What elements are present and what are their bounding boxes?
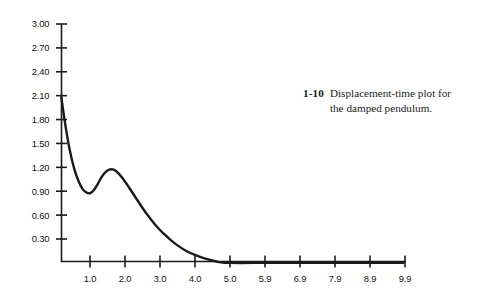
x-axis-tick-label: 6.9 bbox=[294, 273, 307, 284]
y-axis-tick-label: 2.40 bbox=[32, 66, 50, 77]
y-axis-tick-label: 2.10 bbox=[32, 90, 50, 101]
x-axis-tick-label: 1.0 bbox=[84, 273, 97, 284]
displacement-time-chart: 0.300.600.901.201.501.802.102.402.703.00… bbox=[0, 0, 492, 299]
displacement-curve bbox=[61, 97, 403, 263]
y-axis-tick-label: 2.70 bbox=[32, 42, 50, 53]
x-axis-tick-label: 7.9 bbox=[329, 273, 342, 284]
caption-text: Displacement-time plot for the damped pe… bbox=[330, 86, 462, 115]
y-axis-tick-label: 1.80 bbox=[32, 114, 50, 125]
y-axis-tick-label: 0.90 bbox=[32, 186, 50, 197]
x-axis-tick-label: 5.0 bbox=[224, 273, 237, 284]
x-axis-tick-label: 4.0 bbox=[189, 273, 202, 284]
x-axis-tick-labels: 1.02.03.04.05.05.96.97.98.99.9 bbox=[84, 273, 412, 284]
figure-caption: 1-10Displacement-time plot for the dampe… bbox=[303, 86, 488, 115]
figure-damped-pendulum: 0.300.600.901.201.501.802.102.402.703.00… bbox=[0, 0, 492, 299]
y-axis-tick-label: 0.30 bbox=[32, 233, 50, 244]
caption-number: 1-10 bbox=[303, 87, 324, 99]
x-axis-tick-label: 8.9 bbox=[364, 273, 377, 284]
x-axis-tick-label: 2.0 bbox=[119, 273, 132, 284]
x-axis-tick-label: 5.9 bbox=[259, 273, 272, 284]
y-axis-tick-labels: 0.300.600.901.201.501.802.102.402.703.00 bbox=[32, 18, 50, 244]
y-axis-tick-label: 1.50 bbox=[32, 138, 50, 149]
x-axis-tick-label: 9.9 bbox=[399, 273, 412, 284]
y-axis-tick-label: 1.20 bbox=[32, 162, 50, 173]
x-axis-tick-label: 3.0 bbox=[154, 273, 167, 284]
y-axis-tick-label: 3.00 bbox=[32, 18, 50, 29]
axes bbox=[61, 24, 406, 262]
y-axis-tick-label: 0.60 bbox=[32, 210, 50, 221]
